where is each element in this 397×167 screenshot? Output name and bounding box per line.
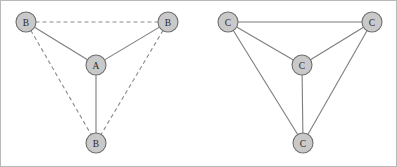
graph-edge-solid bbox=[308, 30, 368, 135]
graph-edge-solid bbox=[236, 27, 294, 60]
graph-node: B bbox=[86, 133, 106, 153]
graph-node: B bbox=[16, 12, 36, 32]
left-graph: BBAB bbox=[16, 12, 178, 153]
graph-edge-solid bbox=[104, 27, 160, 60]
graph-edge-solid bbox=[302, 75, 303, 134]
graph-node: B bbox=[158, 12, 178, 32]
graph-node: C bbox=[293, 133, 313, 153]
graph-edge-dashed bbox=[101, 30, 163, 135]
node-label: C bbox=[299, 61, 305, 71]
node-label: C bbox=[225, 18, 231, 28]
graph-edge-solid bbox=[233, 30, 298, 135]
node-label: B bbox=[23, 18, 29, 28]
right-graph-edges bbox=[233, 22, 367, 135]
node-label: C bbox=[369, 18, 375, 28]
left-graph-edges bbox=[31, 22, 163, 135]
right-graph: CCCC bbox=[218, 12, 382, 153]
node-label: B bbox=[93, 139, 99, 149]
graph-edge-dashed bbox=[31, 30, 91, 135]
node-label: B bbox=[165, 18, 171, 28]
graph-edge-solid bbox=[310, 27, 364, 60]
graph-node: A bbox=[86, 55, 106, 75]
node-label: A bbox=[93, 61, 100, 71]
graph-canvas: BBABCCCC bbox=[0, 0, 397, 167]
graph-figure: BBABCCCC bbox=[0, 0, 397, 167]
graph-node: C bbox=[292, 55, 312, 75]
graph-node: C bbox=[218, 12, 238, 32]
graph-edge-solid bbox=[34, 27, 88, 60]
node-label: C bbox=[300, 139, 306, 149]
graph-node: C bbox=[362, 12, 382, 32]
